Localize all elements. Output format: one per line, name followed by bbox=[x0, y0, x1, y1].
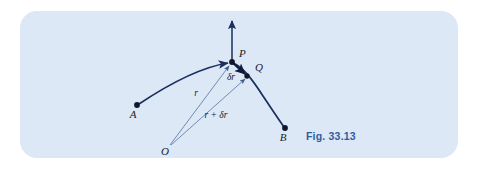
point-label-p: P bbox=[238, 47, 246, 59]
radius-vector-r bbox=[170, 66, 229, 145]
point-label-a: A bbox=[129, 108, 137, 120]
segment-label-r: r bbox=[194, 88, 198, 98]
point-label-q: Q bbox=[255, 61, 263, 73]
trajectory-arc-a-to-p bbox=[139, 63, 228, 104]
vector-diagram: A P Q B O r r + δr δr bbox=[0, 0, 477, 169]
segment-label-r-plus-dr: r + δr bbox=[205, 110, 228, 120]
point-marker-p bbox=[229, 59, 235, 65]
figure-container: A P Q B O r r + δr δr Fig. 33.13 bbox=[0, 0, 477, 169]
figure-caption: Fig. 33.13 bbox=[306, 130, 356, 142]
point-label-b: B bbox=[280, 131, 287, 143]
point-label-o: O bbox=[161, 145, 169, 157]
point-marker-q bbox=[244, 73, 249, 78]
segment-label-dr: δr bbox=[227, 72, 235, 82]
